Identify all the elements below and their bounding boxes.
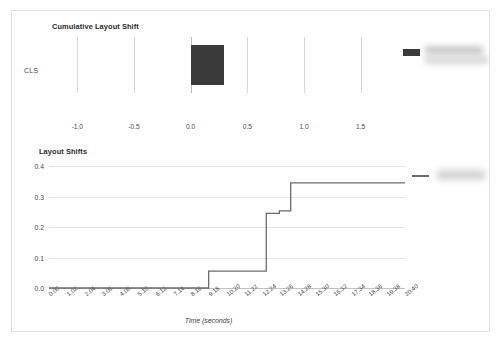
web-vitals-report-card: Cumulative Layout Shift CLS -1.0-0.50.00… <box>11 10 490 332</box>
layout-shifts-legend <box>412 170 492 186</box>
layout-shifts-legend-text-redacted <box>437 170 485 180</box>
layout-shifts-plot-area: 0.00.10.20.30.40.001.022.043.064.085.106… <box>49 166 405 288</box>
cls-gridline <box>77 37 78 93</box>
layout-shifts-step-line[interactable] <box>49 166 405 288</box>
layout-shifts-chart: Layout Shifts 0.00.10.20.30.40.001.022.0… <box>12 129 491 333</box>
cls-bar[interactable] <box>191 45 224 85</box>
cls-legend <box>403 44 488 70</box>
layout-shifts-chart-title: Layout Shifts <box>39 147 87 156</box>
layout-shifts-y-tick-label: 0.4 <box>24 163 44 170</box>
cls-gridline <box>361 37 362 93</box>
cls-legend-swatch <box>403 49 420 56</box>
layout-shifts-y-tick-label: 0.0 <box>24 285 44 292</box>
layout-shifts-y-tick-label: 0.2 <box>24 224 44 231</box>
cls-plot-area: -1.0-0.50.00.51.01.5 <box>49 37 389 93</box>
layout-shifts-y-tick-label: 0.1 <box>24 254 44 261</box>
cumulative-layout-shift-chart: Cumulative Layout Shift CLS -1.0-0.50.00… <box>12 11 491 129</box>
layout-shifts-x-axis-title: Time (seconds) <box>12 317 405 324</box>
layout-shifts-y-tick-label: 0.3 <box>24 193 44 200</box>
cls-category-label: CLS <box>24 67 39 74</box>
layout-shifts-legend-line <box>412 175 429 177</box>
cls-gridline <box>134 37 135 93</box>
cls-gridline <box>304 37 305 93</box>
layout-shifts-x-tick-label: 20.40 <box>403 282 419 297</box>
cls-chart-title: Cumulative Layout Shift <box>52 22 139 31</box>
cls-legend-subtext-redacted <box>425 56 488 64</box>
cls-legend-text-redacted <box>425 46 483 55</box>
cls-gridline <box>247 37 248 93</box>
